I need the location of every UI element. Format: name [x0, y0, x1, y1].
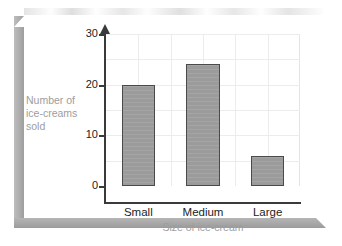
y-axis-tick-label: 0	[78, 179, 98, 191]
gridline-vertical	[235, 34, 236, 186]
x-axis-line	[104, 202, 301, 204]
page-bevel-left	[14, 16, 24, 228]
y-axis-title-line-2: ice-creams	[26, 107, 102, 120]
y-axis-arrow-icon	[100, 24, 110, 34]
y-axis-line	[104, 32, 106, 203]
page-bevel-bottom-cap	[316, 218, 326, 228]
bar-small[interactable]	[122, 85, 156, 186]
y-axis-tick-label: 30	[78, 27, 98, 39]
bar-chart: Number of ice-creams sold 0102030 SmallM…	[24, 16, 326, 218]
y-axis-tick	[99, 34, 105, 36]
plot-area	[106, 34, 300, 186]
x-axis-label-large: Large	[228, 206, 308, 218]
page-frame: Number of ice-creams sold 0102030 SmallM…	[0, 0, 342, 246]
y-axis-title: Number of ice-creams sold	[26, 94, 102, 133]
bar-medium[interactable]	[186, 64, 220, 186]
scan-artifact-top	[24, 8, 324, 15]
x-axis-title: Size of ice-cream	[106, 221, 300, 233]
y-axis-tick	[99, 135, 105, 137]
bar-large[interactable]	[251, 156, 285, 186]
y-axis-title-line-1: Number of	[26, 94, 102, 107]
gridline-vertical	[171, 34, 172, 186]
y-axis-tick-label: 10	[78, 128, 98, 140]
page-bevel-left-cap	[14, 16, 24, 27]
y-axis-tick	[99, 85, 105, 87]
y-axis-tick-label: 20	[78, 78, 98, 90]
y-axis-tick	[99, 186, 105, 188]
